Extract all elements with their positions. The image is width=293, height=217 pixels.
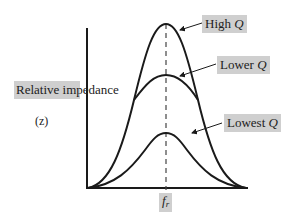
- label-lowest-q: Lowest Q: [224, 114, 281, 132]
- label-q: Q: [257, 57, 266, 72]
- resonance-curves-diagram: [0, 0, 293, 217]
- label-text: Lower: [220, 57, 254, 72]
- label-text: Lowest: [227, 115, 265, 130]
- resonant-frequency-label: fr: [159, 193, 172, 212]
- curve-lowest-q: [88, 133, 246, 188]
- arrow-lower-q: [180, 64, 216, 76]
- label-lower-q: Lower Q: [217, 56, 270, 74]
- y-axis-label: Relative impedance: [14, 81, 80, 99]
- label-q: Q: [234, 16, 243, 31]
- label-q: Q: [269, 115, 278, 130]
- curve-high-q: [88, 24, 246, 188]
- arrow-high-q: [180, 23, 202, 30]
- y-axis-symbol: (z): [35, 114, 48, 129]
- fr-sub: r: [166, 199, 170, 209]
- label-high-q: High Q: [202, 15, 247, 33]
- label-text: High: [205, 16, 231, 31]
